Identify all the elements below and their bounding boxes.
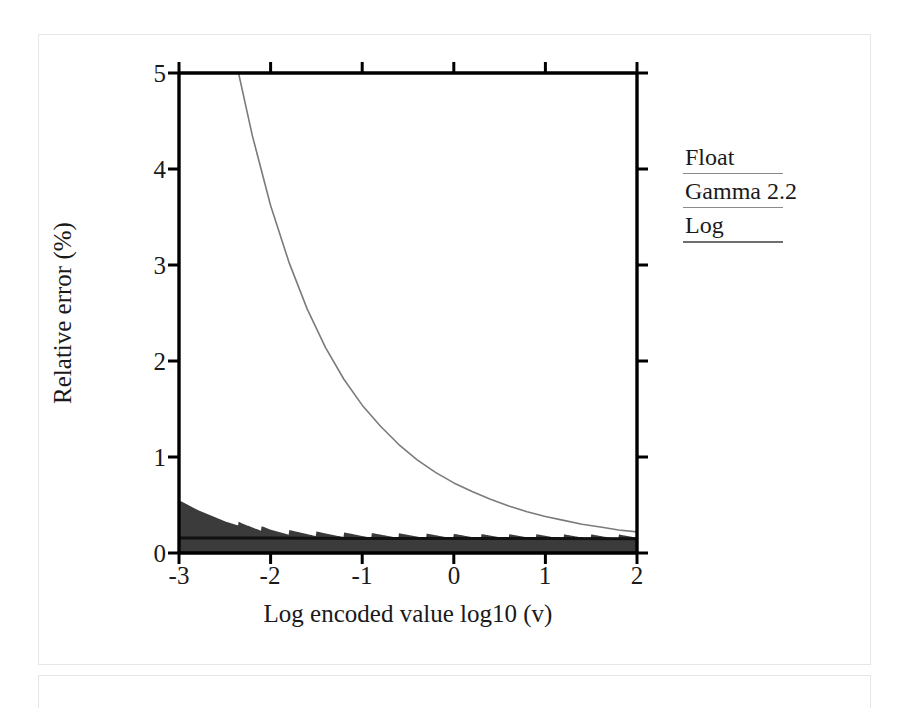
- legend-swatch-log: [683, 241, 783, 243]
- x-tick-label-2: 2: [607, 563, 667, 588]
- x-tick-label-minus1: -1: [332, 563, 392, 588]
- series-log: [179, 538, 637, 539]
- y-tick-label-1: 1: [122, 445, 166, 470]
- x-axis-label: Log encoded value log10 (v): [179, 600, 637, 628]
- chart-legend: Float Gamma 2.2 Log: [683, 144, 795, 246]
- plot-area-background: [179, 73, 637, 553]
- y-tick-label-5: 5: [122, 61, 166, 86]
- legend-entry-log[interactable]: Log: [683, 212, 795, 246]
- legend-swatch-float: [683, 173, 783, 174]
- y-tick-label-2: 2: [122, 349, 166, 374]
- legend-swatch-gamma22: [683, 207, 783, 208]
- legend-label-float: Float: [685, 144, 734, 170]
- x-tick-label-0: 0: [424, 563, 484, 588]
- x-tick-label-minus2: -2: [240, 563, 300, 588]
- legend-label-log: Log: [685, 212, 724, 238]
- y-tick-label-3: 3: [122, 253, 166, 278]
- legend-label-gamma22: Gamma 2.2: [685, 178, 797, 204]
- y-tick-label-4: 4: [122, 157, 166, 182]
- x-tick-label-1: 1: [515, 563, 575, 588]
- x-tick-label-minus3: -3: [149, 563, 209, 588]
- legend-entry-float[interactable]: Float: [683, 144, 795, 178]
- legend-entry-gamma22[interactable]: Gamma 2.2: [683, 178, 795, 212]
- chart-figure: 5 4 3 2 1 0 -3 -2 -1 0 1 2 Relative erro…: [0, 0, 901, 708]
- y-axis-label: Relative error (%): [49, 222, 77, 404]
